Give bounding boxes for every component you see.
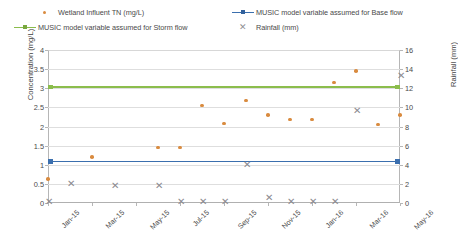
left-tick-label: 3.5: [22, 65, 44, 74]
data-point-rainfall: ✕: [199, 197, 207, 207]
x-tick-label: Mar-16: [368, 208, 390, 230]
x-marker-icon: ✕: [232, 22, 254, 32]
right-tickmark: [400, 146, 403, 147]
gridline: [48, 146, 400, 147]
data-point-tn: [244, 99, 248, 103]
line-endpoint-marker: [395, 85, 400, 90]
right-tickmark: [400, 50, 403, 51]
left-tick-label: 0.5: [22, 180, 44, 189]
legend-label-rainfall: Rainfall (mm): [256, 23, 299, 32]
x-tick-label: May-16: [412, 208, 435, 231]
data-point-rainfall: ✕: [331, 197, 339, 207]
right-tick-label: 6: [405, 142, 427, 151]
data-point-tn: [354, 69, 358, 73]
left-tick-label: 4: [22, 46, 44, 55]
gridline: [48, 88, 400, 89]
legend-item-wetland-influent-tn: Wetland Influent TN (mg/L): [34, 6, 144, 18]
legend-item-rainfall: ✕ Rainfall (mm): [232, 21, 299, 33]
data-point-rainfall: ✕: [287, 197, 295, 207]
right-tick-label: 0: [405, 199, 427, 208]
x-tick-label: Mar-15: [104, 208, 126, 230]
legend-item-base-flow: MUSIC model variable assumed for Base fl…: [232, 6, 403, 18]
line-endpoint-marker: [395, 159, 400, 164]
right-tick-label: 4: [405, 161, 427, 170]
data-point-rainfall: ✕: [155, 181, 163, 191]
data-point-tn: [90, 155, 94, 159]
right-tickmark: [400, 88, 403, 89]
data-point-rainfall: ✕: [177, 197, 185, 207]
line-endpoint-marker: [48, 85, 53, 90]
series-line-storm-flow: [48, 86, 400, 88]
data-point-rainfall: ✕: [67, 179, 75, 189]
right-tick-label: 12: [405, 84, 427, 93]
data-point-rainfall: ✕: [45, 197, 53, 207]
data-point-tn: [200, 104, 204, 108]
legend-label-storm-flow: MUSIC model variable assumed for Storm f…: [38, 23, 188, 32]
gridline: [48, 107, 400, 108]
right-tickmark: [400, 107, 403, 108]
left-tick-label: 2: [22, 123, 44, 132]
data-point-tn: [222, 122, 226, 126]
right-axis-title: Rainfall (mm): [449, 5, 458, 125]
left-tick-label: 2.5: [22, 103, 44, 112]
data-point-tn: [46, 177, 50, 181]
x-tick-label: May-15: [148, 208, 171, 231]
x-tick-label: Jan-15: [59, 208, 81, 230]
left-tick-label: 0: [22, 199, 44, 208]
gridline: [48, 127, 400, 128]
gridline: [48, 165, 400, 166]
dot-marker-icon: [34, 7, 56, 17]
legend-label-base-flow: MUSIC model variable assumed for Base fl…: [256, 8, 403, 17]
right-tick-label: 10: [405, 103, 427, 112]
gridline: [48, 184, 400, 185]
left-tick-label: 1.5: [22, 142, 44, 151]
data-point-rainfall: ✕: [265, 193, 273, 203]
data-point-rainfall: ✕: [309, 197, 317, 207]
series-line-base-flow: [48, 161, 400, 163]
line-endpoint-marker: [48, 159, 53, 164]
x-tickmark: [400, 203, 401, 206]
data-point-tn: [332, 81, 336, 85]
right-tick-label: 2: [405, 180, 427, 189]
right-tick-label: 8: [405, 123, 427, 132]
data-point-tn: [398, 113, 402, 117]
plot-area: ✕✕✕✕✕✕✕✕✕✕✕✕✕✕: [48, 50, 400, 203]
data-point-rainfall: ✕: [397, 71, 405, 81]
right-tickmark: [400, 184, 403, 185]
gridline: [48, 69, 400, 70]
data-point-tn: [178, 146, 182, 150]
legend-item-storm-flow: MUSIC model variable assumed for Storm f…: [14, 21, 188, 33]
data-point-rainfall: ✕: [353, 106, 361, 116]
chart-legend: Wetland Influent TN (mg/L) MUSIC model v…: [0, 2, 453, 36]
data-point-rainfall: ✕: [111, 181, 119, 191]
right-tickmark: [400, 127, 403, 128]
right-tickmark: [400, 165, 403, 166]
right-tick-label: 14: [405, 65, 427, 74]
left-tick-label: 1: [22, 161, 44, 170]
right-tick-label: 16: [405, 46, 427, 55]
gridline: [48, 50, 400, 51]
data-point-rainfall: ✕: [221, 197, 229, 207]
x-tick-label: Jan-16: [323, 208, 345, 230]
x-tick-label: Sep-15: [236, 208, 259, 231]
x-tick-label: Nov-15: [280, 208, 303, 231]
data-point-rainfall: ✕: [243, 160, 251, 170]
legend-label-wetland-influent-tn: Wetland Influent TN (mg/L): [58, 8, 144, 17]
line-marker-blue-icon: [232, 7, 254, 17]
data-point-tn: [156, 146, 160, 150]
left-tick-label: 3: [22, 84, 44, 93]
data-point-tn: [266, 113, 270, 117]
x-tick-label: Jul-15: [191, 208, 211, 228]
